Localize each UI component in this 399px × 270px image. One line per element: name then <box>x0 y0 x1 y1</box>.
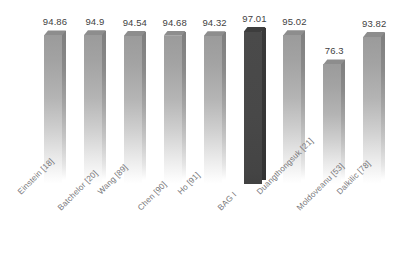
bar-1[interactable]: 94.9 <box>84 30 106 184</box>
category-label-3: Chen [90] <box>136 180 168 212</box>
bar-5[interactable]: 97.01 <box>244 27 266 184</box>
plot-area: 94.8694.994.5494.6894.3297.0195.0276.393… <box>0 0 399 184</box>
bar-side-face <box>301 31 305 180</box>
bar-3[interactable]: 94.68 <box>164 31 186 184</box>
bar-value-label: 76.3 <box>311 45 357 56</box>
bar-side-face <box>262 28 266 180</box>
bar-front-face <box>164 36 182 184</box>
category-label-5: BAG I <box>216 190 238 212</box>
bar-side-face <box>182 32 186 180</box>
bar-4[interactable]: 94.32 <box>204 31 226 184</box>
bar-side-face <box>102 31 106 180</box>
bar-front-face <box>84 35 102 184</box>
bar-chart: 94.8694.994.5494.6894.3297.0195.0276.393… <box>0 0 399 270</box>
bar-value-label: 95.02 <box>271 16 317 27</box>
bar-side-face <box>222 32 226 180</box>
category-axis-labels: Einstein [18]Batchelor [20]Wang [89]Chen… <box>0 184 399 270</box>
bar-front-face <box>204 36 222 184</box>
bar-value-label: 93.82 <box>351 18 397 29</box>
bar-2[interactable]: 94.54 <box>124 31 146 184</box>
bar-front-face <box>124 36 142 184</box>
bar-side-face <box>381 33 385 180</box>
bar-side-face <box>142 32 146 180</box>
bar-side-face <box>62 31 66 180</box>
bar-side-face <box>341 60 345 180</box>
bar-front-face <box>244 32 262 184</box>
